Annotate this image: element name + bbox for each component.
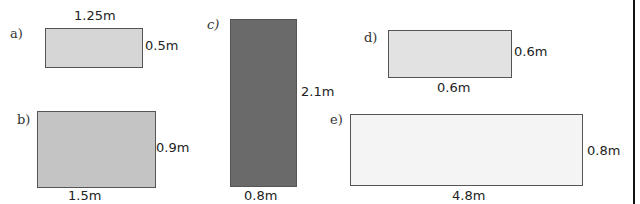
rectangle-a [45, 28, 143, 68]
shape-c-height-label: 2.1m [301, 84, 334, 99]
shape-a-label: a) [10, 26, 23, 41]
shape-a-width-label: 1.25m [74, 8, 116, 23]
shape-e-height-label: 0.8m [587, 143, 620, 158]
shape-b-label: b) [17, 112, 30, 127]
shape-b-height-label: 0.9m [156, 140, 189, 155]
page-border-line [633, 0, 635, 204]
shape-d-label: d) [364, 30, 377, 45]
shape-d-width-label: 0.6m [437, 80, 470, 95]
shape-e-label: e) [330, 112, 343, 127]
rectangle-e [350, 114, 583, 186]
shape-e-width-label: 4.8m [452, 188, 485, 203]
shape-d-height-label: 0.6m [514, 44, 547, 59]
rectangle-c [230, 19, 297, 187]
shape-c-label: c) [207, 17, 219, 32]
shape-a-height-label: 0.5m [145, 38, 178, 53]
shape-b-width-label: 1.5m [68, 188, 101, 203]
rectangle-b [37, 111, 156, 188]
shape-c-width-label: 0.8m [244, 188, 277, 203]
rectangle-d [388, 30, 512, 78]
